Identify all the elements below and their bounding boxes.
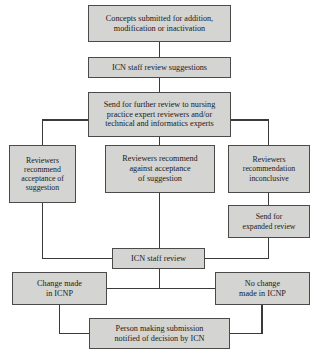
node-label-send-further-review: Send for further review to nursing pract… [102,100,218,129]
node-send-further-review: Send for further review to nursing pract… [88,92,231,137]
connector-send-review-to-left-branch [43,120,89,145]
node-label-reviewers-recommend-against: Reviewers recommend against acceptance o… [120,154,199,183]
connector-acceptance-to-icn-staff-review [43,203,113,259]
node-reviewers-inconclusive: Reviewers recommendation inconclusive [228,145,310,193]
node-label-reviewers-inconclusive: Reviewers recommendation inconclusive [241,155,297,183]
node-change-made-in-icnp: Change made in ICNP [12,272,107,305]
node-icn-staff-review: ICN staff review [112,248,205,269]
node-concepts-submitted: Concepts submitted for addition, modific… [88,5,231,42]
node-label-person-notified: Person making submission notified of dec… [112,324,206,343]
connector-send-review-to-right-branch [231,120,269,145]
connector-expanded-review-to-icn-staff-review [205,238,269,259]
node-reviewers-recommend-acceptance: Reviewers recommend acceptance of sugges… [9,145,76,203]
connector-no-change-to-person-notified [230,305,262,334]
node-person-notified: Person making submission notified of dec… [89,318,230,349]
node-label-no-change-made-in-icnp: No change made in ICNP [237,279,288,298]
node-label-icn-staff-review-suggestions: ICN staff review suggestions [110,63,209,73]
node-label-send-expanded-review: Send for expanded review [240,212,297,230]
node-label-icn-staff-review: ICN staff review [129,254,188,264]
connector-change-to-person-notified [60,305,90,334]
node-label-concepts-submitted: Concepts submitted for addition, modific… [104,14,215,33]
node-reviewers-recommend-against: Reviewers recommend against acceptance o… [105,145,215,193]
node-label-change-made-in-icnp: Change made in ICNP [35,279,84,298]
node-no-change-made-in-icnp: No change made in ICNP [215,272,310,305]
node-send-expanded-review: Send for expanded review [228,205,310,238]
node-icn-staff-review-suggestions: ICN staff review suggestions [88,57,231,78]
flowchart-diagram: Concepts submitted for addition, modific… [0,0,319,355]
node-label-reviewers-recommend-acceptance: Reviewers recommend acceptance of sugges… [19,156,66,193]
